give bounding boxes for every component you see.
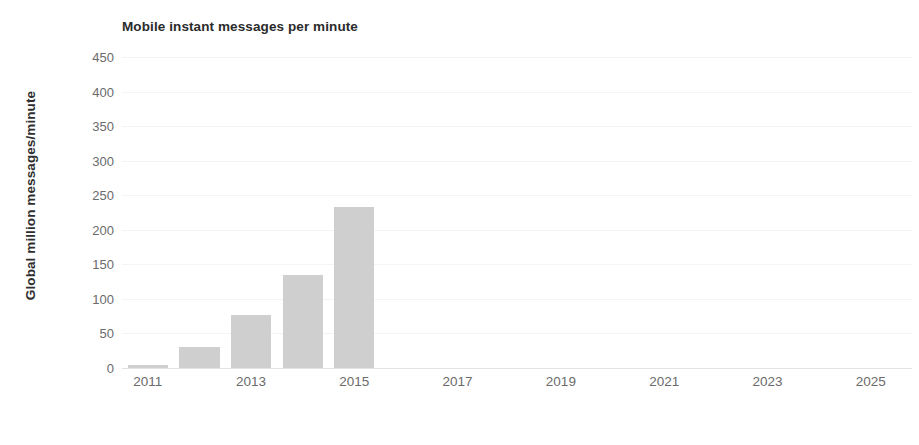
bar-2012 <box>179 347 219 368</box>
y-tick-label: 450 <box>74 50 114 65</box>
y-tick-label: 0 <box>74 361 114 376</box>
bar-2013 <box>231 315 271 368</box>
gridline <box>122 57 912 58</box>
y-axis-label: Global million messages/minute <box>14 0 48 390</box>
gridline <box>122 92 912 93</box>
x-tick-label: 2023 <box>752 374 782 389</box>
gridline <box>122 195 912 196</box>
y-tick-label: 150 <box>74 257 114 272</box>
x-axis-tick-labels: 20112013201520172019202120232025 <box>122 374 912 400</box>
plot-area <box>122 57 912 368</box>
x-axis-line <box>122 368 912 369</box>
y-tick-label: 400 <box>74 84 114 99</box>
y-tick-label: 350 <box>74 119 114 134</box>
chart-figure: Global million messages/minute Mobile in… <box>0 0 919 445</box>
chart-title: Mobile instant messages per minute <box>122 19 358 34</box>
gridline <box>122 230 912 231</box>
x-tick-label: 2017 <box>443 374 473 389</box>
bar-2014 <box>283 275 323 368</box>
y-axis-label-text: Global million messages/minute <box>24 90 39 299</box>
x-tick-label: 2025 <box>856 374 886 389</box>
y-tick-label: 100 <box>74 291 114 306</box>
y-tick-label: 300 <box>74 153 114 168</box>
x-tick-label: 2019 <box>546 374 576 389</box>
gridline <box>122 264 912 265</box>
y-tick-label: 250 <box>74 188 114 203</box>
x-tick-label: 2021 <box>649 374 679 389</box>
y-tick-label: 50 <box>74 326 114 341</box>
x-tick-label: 2011 <box>133 374 162 389</box>
gridline <box>122 299 912 300</box>
y-tick-label: 200 <box>74 222 114 237</box>
gridline <box>122 161 912 162</box>
gridline <box>122 126 912 127</box>
y-axis-tick-labels: 050100150200250300350400450 <box>68 0 114 445</box>
x-tick-label: 2015 <box>339 374 369 389</box>
x-tick-label: 2013 <box>236 374 266 389</box>
bar-2015 <box>334 207 374 368</box>
